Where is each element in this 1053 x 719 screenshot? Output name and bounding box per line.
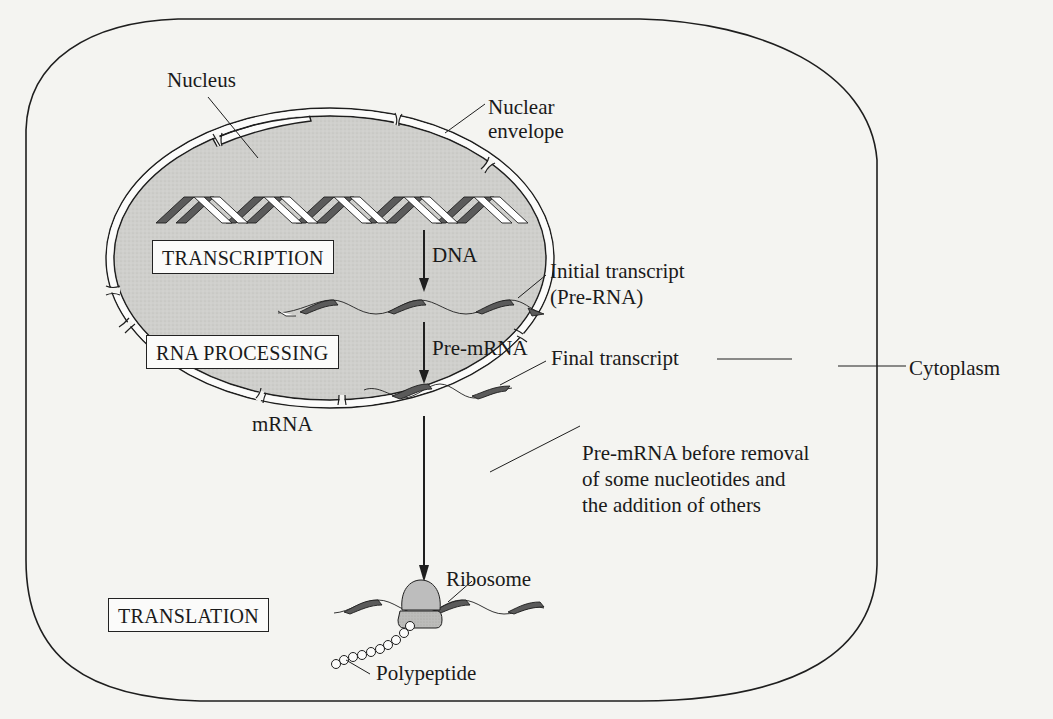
cytoplasm-label: Cytoplasm xyxy=(909,356,1000,380)
flow-label-dna: DNA xyxy=(432,243,478,267)
nuclear-envelope-label-line1: Nuclear xyxy=(488,95,564,119)
initial-transcript-callout: Initial transcript (Pre-RNA) xyxy=(550,258,685,310)
premrna-note-line2: of some nucleotides and xyxy=(582,466,809,492)
nuclear-envelope-label-line2: envelope xyxy=(488,119,564,143)
ribosome-label: Ribosome xyxy=(446,567,531,591)
initial-transcript-line2: (Pre-RNA) xyxy=(550,284,685,310)
premrna-note-line3: the addition of others xyxy=(582,492,809,518)
premrna-note-line1: Pre-mRNA before removal xyxy=(582,440,809,466)
nucleus-label: Nucleus xyxy=(167,68,236,92)
ribosome-icon xyxy=(398,580,442,628)
premrna-note-callout: Pre-mRNA before removal of some nucleoti… xyxy=(582,440,809,518)
stage-translation: TRANSLATION xyxy=(108,598,269,632)
flow-label-mrna: mRNA xyxy=(252,412,313,436)
nuclear-envelope-label: Nuclear envelope xyxy=(488,95,564,143)
initial-transcript-line1: Initial transcript xyxy=(550,258,685,284)
stage-rna-processing: RNA PROCESSING xyxy=(146,335,339,369)
flow-label-pre-mrna: Pre-mRNA xyxy=(432,336,528,360)
polypeptide-label: Polypeptide xyxy=(376,661,476,685)
stage-transcription: TRANSCRIPTION xyxy=(152,240,334,274)
final-transcript-callout: Final transcript xyxy=(551,346,679,370)
